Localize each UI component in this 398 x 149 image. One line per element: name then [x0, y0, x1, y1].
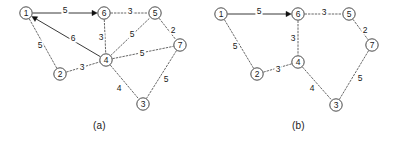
graph-node-label: 5: [347, 9, 352, 19]
edge-weight-label: 2: [363, 25, 368, 35]
edge-arrowhead-icon: [286, 11, 291, 16]
node-layer: 1657423: [215, 8, 378, 111]
edge-weight-label: 3: [322, 7, 327, 17]
graph-b-canvas: 532353451657423: [199, 0, 398, 134]
panel-a: 563235553451657423 (a): [0, 0, 199, 149]
edge-weight-label: 3: [128, 6, 133, 16]
edge-weight-label: 5: [38, 40, 43, 50]
edge-weight-label: 5: [140, 48, 145, 58]
edge-weight-label: 4: [310, 83, 315, 93]
panel-b-caption: (b): [199, 120, 398, 131]
graph-edge: [225, 20, 254, 68]
graph-node-label: 1: [219, 9, 224, 19]
node-layer: 1657423: [20, 7, 186, 110]
edge-weight-label: 5: [257, 6, 262, 16]
edge-weight-label: 3: [276, 64, 281, 74]
graph-node-label: 3: [141, 99, 146, 109]
figure-root: 563235553451657423 (a) 532353451657423 (…: [0, 0, 398, 149]
edge-weight-label: 5: [63, 5, 68, 15]
graph-node-label: 7: [178, 40, 183, 50]
edge-weight-label: 2: [171, 25, 176, 35]
edge-weight-label: 5: [358, 73, 363, 83]
edge-weight-label: 3: [99, 32, 104, 42]
graph-node-label: 7: [370, 40, 375, 50]
graph-edge: [340, 51, 369, 99]
edge-weight-label: 3: [291, 33, 296, 43]
edge-weight-label: 5: [164, 74, 169, 84]
edge-weight-label: 5: [130, 29, 135, 39]
graph-node-label: 4: [296, 57, 301, 67]
graph-edge: [147, 51, 177, 98]
graph-node-label: 6: [102, 8, 107, 18]
graph-node-label: 2: [58, 69, 63, 79]
graph-node-label: 1: [24, 8, 29, 18]
graph-node-label: 6: [296, 9, 301, 19]
graph-node-label: 3: [334, 100, 339, 110]
graph-edge: [37, 19, 100, 56]
panel-b: 532353451657423 (b): [199, 0, 398, 149]
graph-edge: [303, 67, 332, 100]
edge-weight-label: 4: [117, 83, 122, 93]
edge-weight-label: 5: [233, 41, 238, 51]
panel-a-caption: (a): [0, 120, 199, 131]
graph-edge: [111, 65, 139, 98]
edge-weight-label: 6: [71, 33, 76, 43]
graph-node-label: 2: [255, 69, 260, 79]
graph-node-label: 4: [104, 55, 109, 65]
graph-node-label: 5: [153, 8, 158, 18]
edge-weight-label: 3: [80, 62, 85, 72]
edge-arrowhead-icon: [92, 10, 97, 15]
graph-a-canvas: 563235553451657423: [0, 0, 199, 134]
